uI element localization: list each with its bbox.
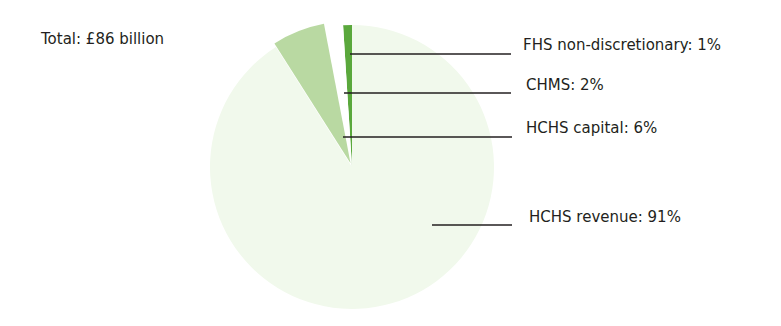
label-hchs-revenue: HCHS revenue: 91% bbox=[529, 208, 681, 226]
pie-slices bbox=[210, 24, 494, 309]
label-chms: CHMS: 2% bbox=[526, 76, 604, 94]
total-label: Total: £86 billion bbox=[41, 30, 164, 48]
label-fhs-non-discretionary: FHS non-discretionary: 1% bbox=[523, 36, 721, 54]
label-hchs-capital: HCHS capital: 6% bbox=[526, 119, 657, 137]
